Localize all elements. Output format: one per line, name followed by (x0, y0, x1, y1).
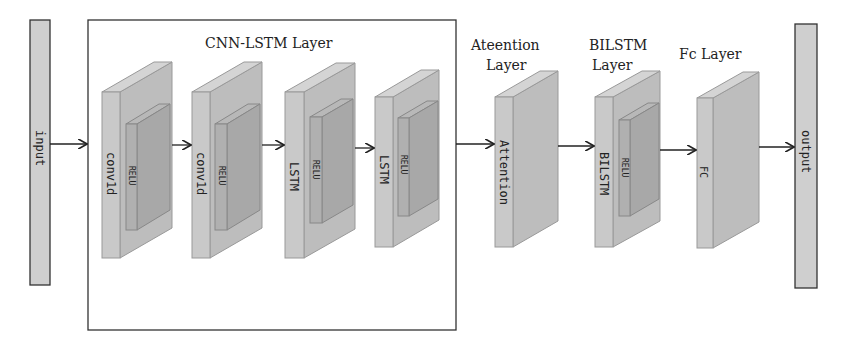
conv1d-label: conv1d (104, 152, 118, 195)
fc-title: Fc Layer (679, 46, 742, 62)
relu-label: RELU (399, 155, 408, 174)
fc-label: FC (698, 166, 709, 178)
lstm-block-2: LSTM RELU (375, 70, 439, 247)
attention-title-line2: Layer (486, 57, 527, 73)
architecture-diagram: input CNN-LSTM Layer Ateention Layer BIL… (0, 0, 845, 345)
fc-block: FC (697, 72, 759, 248)
bilstm-block: BILSTM RELU (595, 71, 660, 247)
relu-label: RELU (217, 166, 226, 185)
bilstm-label: BILSTM (597, 152, 611, 195)
output-label: output (799, 130, 813, 173)
output-node: output (795, 24, 817, 288)
cnn-lstm-title: CNN-LSTM Layer (205, 35, 333, 51)
conv1d-label: conv1d (194, 152, 208, 195)
relu-label: RELU (127, 166, 136, 185)
attention-block: Attention (495, 71, 558, 247)
input-node: input (30, 20, 50, 285)
conv1d-block-1: conv1d RELU (102, 62, 172, 258)
attention-title-line1: Ateention (470, 37, 540, 53)
attention-label: Attention (497, 140, 511, 205)
lstm-block-1: LSTM RELU (285, 63, 355, 258)
lstm-label: LSTM (287, 162, 301, 191)
bilstm-title-line2: Layer (592, 57, 633, 73)
conv1d-block-2: conv1d RELU (192, 62, 262, 258)
input-label: input (33, 130, 47, 166)
relu-label: RELU (620, 158, 629, 177)
bilstm-title-line1: BILSTM (589, 37, 647, 53)
lstm-label: LSTM (377, 155, 391, 184)
relu-label: RELU (311, 160, 320, 179)
